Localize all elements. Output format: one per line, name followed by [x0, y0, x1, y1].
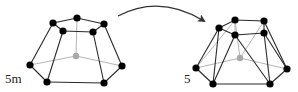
- left-label: 5m: [5, 72, 22, 85]
- right-edge: [235, 33, 264, 35]
- left-vertex: [100, 79, 107, 86]
- left-vertex: [89, 28, 96, 35]
- left-polyhedron: [26, 14, 125, 86]
- left-vertex: [43, 78, 50, 85]
- right-vertex: [231, 31, 238, 38]
- right-hidden-vertex: [237, 55, 243, 61]
- left-vertex: [100, 20, 107, 27]
- left-vertex: [26, 61, 33, 68]
- left-vertex: [49, 19, 56, 26]
- right-vertex: [283, 65, 290, 72]
- right-vertex: [192, 64, 199, 71]
- left-edge: [47, 31, 63, 82]
- right-vertex: [209, 80, 216, 87]
- right-polyhedron: [192, 16, 290, 87]
- right-vertex: [260, 29, 267, 36]
- left-edge: [30, 23, 53, 65]
- right-label: 5: [184, 72, 191, 85]
- right-hidden-edge: [240, 21, 264, 58]
- left-edge: [104, 66, 122, 83]
- left-edge: [47, 82, 104, 83]
- right-vertex: [215, 24, 222, 31]
- left-edge: [77, 18, 104, 24]
- diagram-canvas: [0, 0, 298, 92]
- left-vertex: [118, 62, 125, 69]
- right-vertex: [260, 17, 267, 24]
- left-vertex: [59, 27, 66, 34]
- left-edge: [63, 31, 93, 32]
- transform-arrow-icon: [118, 6, 204, 21]
- left-edge: [30, 65, 47, 82]
- right-vertex: [266, 80, 273, 87]
- left-vertex: [73, 14, 80, 21]
- right-vertex: [231, 16, 238, 23]
- left-edge: [93, 32, 104, 83]
- left-edge: [53, 18, 77, 23]
- left-edge: [104, 24, 122, 66]
- left-hidden-edge: [76, 18, 77, 56]
- left-hidden-vertex: [73, 53, 79, 59]
- right-edge: [235, 20, 264, 21]
- right-hidden-edge: [240, 58, 287, 69]
